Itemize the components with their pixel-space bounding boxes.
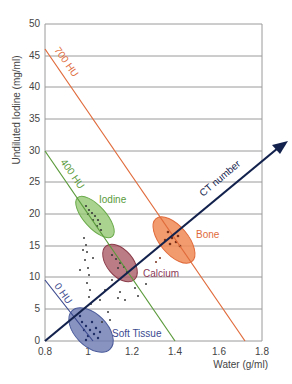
soft-tissue-label: Soft Tissue: [112, 328, 162, 339]
svg-text:45: 45: [29, 50, 41, 61]
svg-text:20: 20: [29, 208, 41, 219]
svg-text:5: 5: [34, 303, 40, 314]
svg-text:1.2: 1.2: [125, 346, 139, 357]
svg-text:10: 10: [29, 271, 41, 282]
hu400-label: 400 HU: [58, 157, 86, 191]
iodine-label: Iodine: [99, 194, 127, 205]
svg-text:40: 40: [29, 81, 41, 92]
calcium-label: Calcium: [143, 268, 179, 279]
svg-text:1.4: 1.4: [168, 346, 182, 357]
svg-text:1.6: 1.6: [212, 346, 226, 357]
x-tick-labels: 0.8 1 1.2 1.4 1.6 1.8: [38, 346, 269, 357]
svg-text:0: 0: [34, 335, 40, 346]
svg-text:35: 35: [29, 113, 41, 124]
x-axis-label: Water (g/ml): [213, 359, 268, 370]
hu700-label: 700 HU: [52, 45, 80, 79]
bone-label: Bone: [196, 229, 220, 240]
ct-number-label: CT number: [197, 158, 243, 199]
svg-text:0.8: 0.8: [38, 346, 52, 357]
y-axis-label: Undiluted Iodine (mg/ml): [11, 56, 22, 165]
chart: 0 5 10 15 20 25 30 35 40 45 50 0.8 1 1.2…: [0, 0, 292, 384]
y-tick-labels: 0 5 10 15 20 25 30 35 40 45 50: [29, 18, 41, 346]
svg-text:25: 25: [29, 176, 41, 187]
svg-text:50: 50: [29, 18, 41, 29]
svg-text:1.8: 1.8: [255, 346, 269, 357]
svg-text:15: 15: [29, 240, 41, 251]
svg-text:30: 30: [29, 145, 41, 156]
